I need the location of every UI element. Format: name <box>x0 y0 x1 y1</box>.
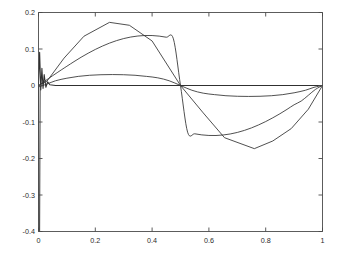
y-tick-label: 0.2 <box>25 8 35 17</box>
axes-frame <box>39 13 323 232</box>
plot-frame <box>39 13 323 232</box>
x-tick-label: 0.2 <box>90 236 100 245</box>
x-tick-label: 0 <box>37 236 41 245</box>
x-tick-label: 0.6 <box>204 236 214 245</box>
series-layer <box>39 22 323 231</box>
figure-canvas: 00.20.40.60.81-0.4-0.3-0.2-0.100.10.2 <box>0 0 337 261</box>
x-tick-label: 0.4 <box>147 236 157 245</box>
tick-labels: 00.20.40.60.81-0.4-0.3-0.2-0.100.10.2 <box>23 8 325 245</box>
x-tick-label: 1 <box>321 236 325 245</box>
y-tick-label: 0.1 <box>25 45 35 54</box>
line-chart: 00.20.40.60.81-0.4-0.3-0.2-0.100.10.2 <box>0 0 337 261</box>
y-tick-label: 0 <box>31 81 35 90</box>
tick-marks <box>39 13 323 232</box>
y-tick-label: -0.4 <box>23 227 35 236</box>
y-tick-label: -0.1 <box>23 118 35 127</box>
y-tick-label: -0.3 <box>23 191 35 200</box>
x-tick-label: 0.8 <box>261 236 271 245</box>
y-tick-label: -0.2 <box>23 154 35 163</box>
